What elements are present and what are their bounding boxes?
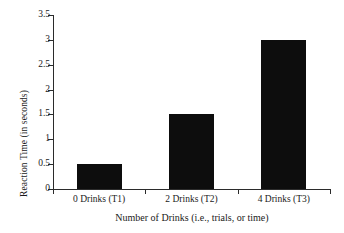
x-axis-category-label: 2 Drinks (T2)	[145, 194, 237, 204]
y-axis-line	[53, 15, 54, 190]
bar	[169, 114, 214, 189]
x-axis-category-label: 0 Drinks (T1)	[53, 194, 145, 204]
bar	[77, 164, 122, 189]
bar-chart: Reaction Time (in seconds) 3.532.521.510…	[0, 0, 344, 233]
y-axis-tick-label: 1.5	[38, 110, 50, 120]
bar	[261, 40, 306, 189]
y-axis-tick-label: 1	[45, 135, 50, 145]
y-axis-tick-label: 2.5	[38, 60, 50, 70]
y-axis-title-text: Reaction Time (in seconds)	[19, 90, 29, 197]
x-axis-tick	[330, 189, 331, 194]
x-axis-category-label: 4 Drinks (T3)	[238, 194, 330, 204]
y-axis-tick-label: 0	[45, 184, 50, 194]
x-axis-title: Number of Drinks (i.e., trials, or time)	[53, 212, 331, 223]
x-axis-line	[53, 189, 331, 190]
y-axis-tick-label: 2	[45, 85, 50, 95]
y-axis-tick-label: 0.5	[38, 159, 50, 169]
y-axis-tick-label: 3	[45, 35, 50, 45]
y-axis-tick-label: 3.5	[38, 10, 50, 20]
y-axis-title: Reaction Time (in seconds)	[16, 0, 32, 233]
